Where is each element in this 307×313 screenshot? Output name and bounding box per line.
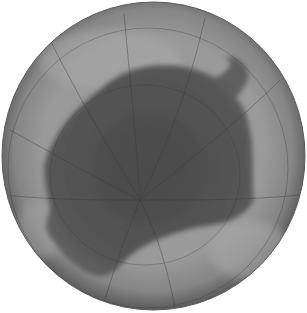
globe-image — [0, 0, 307, 313]
globe-svg — [0, 0, 307, 313]
